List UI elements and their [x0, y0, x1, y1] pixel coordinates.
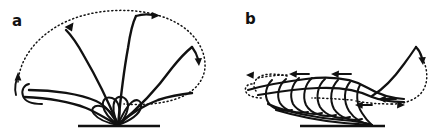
- panel-a: a: [12, 10, 205, 126]
- panel-b: b: [245, 10, 427, 126]
- panel-b-right-crest: [372, 47, 426, 96]
- flow-trajectory-figure: a: [0, 0, 439, 137]
- arrow-down-crest: [418, 57, 425, 65]
- figure-root: a: [0, 0, 439, 137]
- panel-b-label: b: [245, 10, 256, 28]
- arrow-down-right: [195, 58, 202, 66]
- arrow-right-top: [152, 12, 161, 19]
- arrow-up-left: [15, 72, 22, 81]
- panel-b-dotted-right: [312, 62, 427, 104]
- panel-a-left-hook: [15, 72, 42, 104]
- panel-b-top-arrows: [289, 71, 351, 78]
- panel-a-label: a: [12, 12, 22, 30]
- panel-b-arrow-left-small: [246, 72, 254, 79]
- panel-a-curve-3: [118, 47, 202, 125]
